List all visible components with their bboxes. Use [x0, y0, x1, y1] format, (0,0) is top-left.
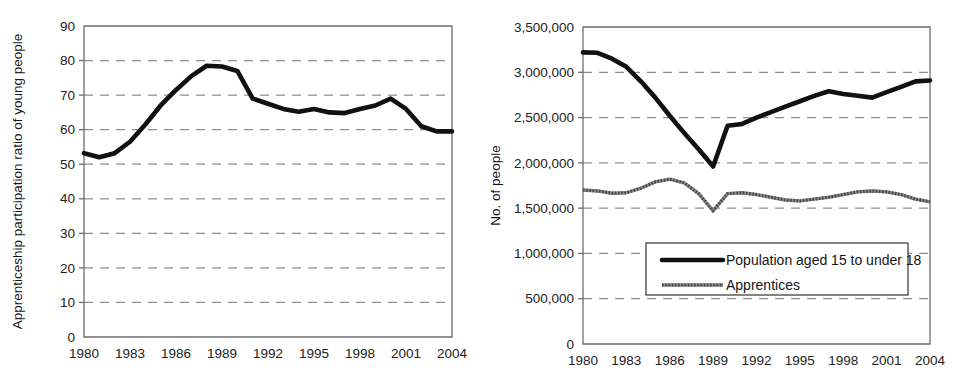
x-tick-label: 1989: [207, 346, 237, 361]
legend-label: Population aged 15 to under 18: [726, 252, 922, 268]
x-tick-label: 2004: [437, 346, 468, 361]
y-axis-title: Apprenticeship participation ratio of yo…: [10, 34, 25, 330]
series-line-2: [583, 179, 930, 211]
y-tick-label: 30: [60, 226, 75, 241]
y-tick-label: 3,000,000: [514, 65, 574, 80]
x-tick-label: 1995: [299, 346, 329, 361]
y-tick-label: 3,500,000: [514, 20, 574, 35]
two-panel-line-chart-figure: 9080706050403020100198019831986198919921…: [0, 0, 969, 391]
x-tick-label: 1992: [741, 353, 771, 368]
y-tick-label: 10: [60, 295, 75, 310]
y-tick-label: 50: [60, 157, 75, 172]
chart-panel-right: 3,500,0003,000,0002,500,0002,000,0001,50…: [485, 0, 969, 391]
x-tick-label: 1989: [698, 353, 728, 368]
y-tick-label: 70: [60, 88, 75, 103]
x-tick-label: 1998: [828, 353, 858, 368]
x-tick-label: 2004: [915, 353, 946, 368]
x-tick-label: 1980: [568, 353, 598, 368]
y-tick-label: 2,000,000: [514, 156, 574, 171]
x-tick-label: 1998: [345, 346, 375, 361]
y-tick-label: 0: [566, 337, 574, 352]
series-line-1: [84, 66, 452, 158]
series-line-1: [583, 52, 930, 166]
legend-label: Apprentices: [726, 277, 800, 293]
y-tick-label: 1,000,000: [514, 246, 574, 261]
y-tick-label: 60: [60, 122, 75, 137]
y-tick-label: 0: [67, 330, 75, 345]
y-tick-label: 90: [60, 19, 75, 34]
chart-panel-left: 9080706050403020100198019831986198919921…: [0, 0, 485, 391]
x-tick-label: 1983: [611, 353, 641, 368]
y-tick-label: 20: [60, 261, 75, 276]
right-chart-svg: 3,500,0003,000,0002,500,0002,000,0001,50…: [485, 0, 969, 391]
x-tick-label: 1992: [253, 346, 283, 361]
y-axis-title: No. of people: [488, 145, 503, 225]
x-tick-label: 1983: [115, 346, 145, 361]
y-tick-label: 2,500,000: [514, 110, 574, 125]
x-tick-label: 2001: [872, 353, 902, 368]
y-tick-label: 80: [60, 53, 75, 68]
x-tick-label: 1986: [161, 346, 191, 361]
x-tick-label: 2001: [391, 346, 421, 361]
x-tick-label: 1980: [69, 346, 99, 361]
y-tick-label: 1,500,000: [514, 201, 574, 216]
plot-frame: [84, 26, 452, 337]
y-tick-label: 500,000: [525, 291, 574, 306]
y-tick-label: 40: [60, 191, 75, 206]
left-chart-svg: 9080706050403020100198019831986198919921…: [0, 0, 485, 391]
x-tick-label: 1986: [655, 353, 685, 368]
x-tick-label: 1995: [785, 353, 815, 368]
